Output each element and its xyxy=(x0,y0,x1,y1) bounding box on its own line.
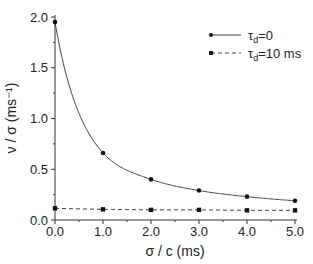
data-point xyxy=(149,208,153,212)
data-point xyxy=(101,151,106,156)
x-tick-label: 5.0 xyxy=(286,224,304,239)
data-point xyxy=(149,177,154,182)
y-tick-label: 0.0 xyxy=(30,213,48,228)
legend-item: τd=0 xyxy=(209,28,273,45)
y-tick-label: 2.0 xyxy=(30,10,48,25)
x-axis-label: σ / c (ms) xyxy=(145,243,204,259)
data-point xyxy=(53,20,58,25)
legend-label: τd=10 ms xyxy=(248,46,302,63)
x-tick-label: 2.0 xyxy=(142,224,160,239)
data-point xyxy=(245,194,250,199)
legend-item: τd=10 ms xyxy=(209,46,302,63)
x-tick-label: 0.0 xyxy=(46,224,64,239)
chart: 0.01.02.03.04.05.00.00.51.01.52.0 τd=0τd… xyxy=(0,0,313,264)
legend: τd=0τd=10 ms xyxy=(209,28,302,63)
y-tick-label: 1.5 xyxy=(30,60,48,75)
x-tick-label: 4.0 xyxy=(238,224,256,239)
data-point xyxy=(293,208,297,212)
data-point xyxy=(53,206,57,210)
data-point xyxy=(197,208,201,212)
data-point xyxy=(197,188,202,193)
y-tick-label: 1.0 xyxy=(30,111,48,126)
x-tick-label: 1.0 xyxy=(94,224,112,239)
data-point xyxy=(293,198,298,203)
legend-label: τd=0 xyxy=(248,28,273,45)
data-point xyxy=(245,208,249,212)
data-point xyxy=(101,207,105,211)
y-axis-label: ν / σ (ms⁻¹) xyxy=(3,83,19,154)
y-tick-label: 0.5 xyxy=(30,162,48,177)
x-tick-label: 3.0 xyxy=(190,224,208,239)
axes: 0.01.02.03.04.05.00.00.51.01.52.0 xyxy=(30,10,304,240)
series-tau10-line xyxy=(55,208,295,210)
